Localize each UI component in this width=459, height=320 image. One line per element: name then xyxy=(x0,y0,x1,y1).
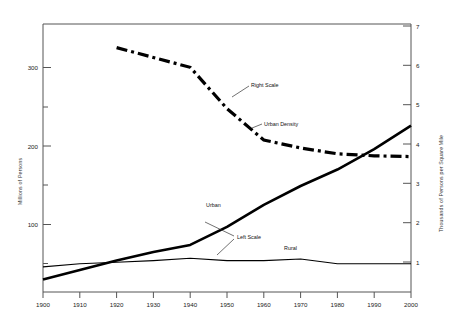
x-tick-label-2000: 2000 xyxy=(404,301,418,308)
x-tick-label-1980: 1980 xyxy=(331,301,345,308)
y2-tick-label-4: 4 xyxy=(416,141,420,148)
x-tick-label-1940: 1940 xyxy=(183,301,197,308)
annotation-right-scale: Right Scale xyxy=(251,82,279,88)
right-axis-title: Thousands of Persons per Square Mile xyxy=(438,135,444,232)
annotation-left-scale: Left Scale xyxy=(237,234,261,240)
x-tick-label-1930: 1930 xyxy=(147,301,161,308)
y2-tick-label-2: 2 xyxy=(416,219,420,226)
x-axis-ticks xyxy=(43,292,411,298)
series-line-urban-density xyxy=(117,48,411,157)
chart-svg: 300 200 100 1 2 3 4 5 6 7 1900 1910 1920… xyxy=(0,0,459,320)
left-axis-title: Millions of Persons xyxy=(17,157,23,205)
x-tick-label-1920: 1920 xyxy=(110,301,124,308)
annotation-urban: Urban xyxy=(206,202,221,208)
annotation-rural: Rural xyxy=(284,245,297,251)
y-tick-label-200: 200 xyxy=(28,143,39,150)
y2-tick-label-6: 6 xyxy=(416,62,420,69)
y2-tick-label-3: 3 xyxy=(416,180,420,187)
x-tick-label-1960: 1960 xyxy=(257,301,271,308)
y2-tick-label-1: 1 xyxy=(416,259,420,266)
y2-tick-label-5: 5 xyxy=(416,101,420,108)
x-tick-label-1970: 1970 xyxy=(294,301,308,308)
y2-tick-label-7: 7 xyxy=(416,23,420,30)
y-tick-label-300: 300 xyxy=(28,64,39,71)
x-tick-label-1990: 1990 xyxy=(367,301,381,308)
x-tick-label-1900: 1900 xyxy=(36,301,50,308)
right-axis-ticks xyxy=(403,26,411,262)
y-tick-label-100: 100 xyxy=(28,221,39,228)
series-line-urban xyxy=(43,126,411,280)
annotation-urban-density: Urban Density xyxy=(264,121,298,127)
x-tick-label-1950: 1950 xyxy=(220,301,234,308)
x-tick-label-1910: 1910 xyxy=(73,301,87,308)
chart-figure: 300 200 100 1 2 3 4 5 6 7 1900 1910 1920… xyxy=(0,0,459,320)
left-axis-ticks xyxy=(43,68,51,264)
series-layer xyxy=(43,48,411,280)
annotation-leaders xyxy=(205,86,262,255)
